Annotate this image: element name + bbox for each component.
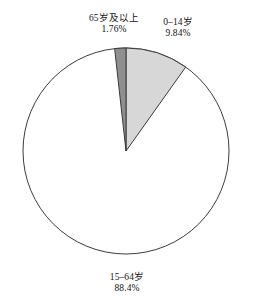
- pie-chart-figure: 65岁及以上 1.76% 0–14岁 9.84% 15–64岁 88.4%: [0, 0, 253, 308]
- pie-label-working-age-value: 88.4%: [84, 283, 170, 294]
- pie-label-children: 0–14岁 9.84%: [138, 17, 218, 39]
- pie-label-working-age: 15–64岁 88.4%: [84, 272, 170, 294]
- pie-label-children-name: 0–14岁: [138, 17, 218, 28]
- pie-label-children-value: 9.84%: [138, 28, 218, 39]
- pie-chart-svg: [0, 0, 253, 308]
- pie-label-working-age-name: 15–64岁: [84, 272, 170, 283]
